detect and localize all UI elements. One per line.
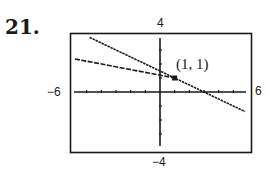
graph-window [0, 0, 269, 172]
graph-frame [71, 34, 252, 153]
point-marker [172, 76, 177, 81]
ymin-label: −4 [152, 155, 166, 169]
line-1 [90, 37, 245, 111]
xmin-label: −6 [47, 85, 61, 99]
point-annotation: (1, 1) [176, 56, 209, 72]
ymax-label: 4 [157, 16, 164, 30]
xmax-label: 6 [255, 84, 262, 98]
axes [74, 38, 246, 146]
